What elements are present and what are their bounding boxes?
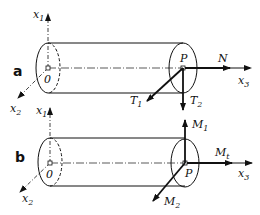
cylinder-b xyxy=(38,138,199,187)
origin-label-a: 0 xyxy=(44,73,51,86)
origin-label-b: 0 xyxy=(46,168,53,181)
panel-label-b: b xyxy=(15,149,25,165)
origin-point-b xyxy=(48,161,52,165)
x3-arrowhead-b xyxy=(245,160,253,166)
x2-label-b: x2 xyxy=(22,192,33,207)
panel-b: b x1 x2 0 Mt x3 P M1 M2 xyxy=(15,104,253,210)
beam-force-diagram: a x1 x2 0 N x3 P T1 xyxy=(0,0,260,215)
x3-arrowhead-a xyxy=(244,65,252,71)
panel-a: a x1 x2 0 N x3 P T1 xyxy=(10,8,252,117)
x3-label-b: x3 xyxy=(238,167,249,182)
panel-label-a: a xyxy=(13,63,22,79)
x3-label-a: x3 xyxy=(238,74,249,89)
label-T2: T2 xyxy=(190,94,202,109)
x1-label-b: x1 xyxy=(36,104,47,119)
x1-label-a: x1 xyxy=(33,8,44,23)
label-Mt: Mt xyxy=(214,146,230,161)
point-label-a: P xyxy=(179,52,188,65)
x2-label-a: x2 xyxy=(10,102,21,117)
label-M1: M1 xyxy=(191,118,208,133)
cylinder-a xyxy=(36,43,197,93)
point-label-b: P xyxy=(184,167,193,180)
vector-T1 xyxy=(147,68,183,101)
label-N: N xyxy=(217,52,228,65)
origin-point-a xyxy=(46,66,50,70)
label-M2: M2 xyxy=(163,195,180,210)
label-T1: T1 xyxy=(130,94,142,109)
